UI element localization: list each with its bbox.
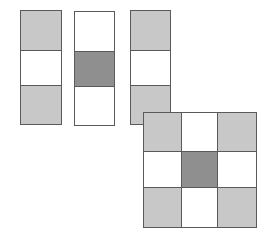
grid-cell-dark (181, 151, 218, 188)
grid-3x3 (143, 112, 256, 227)
grid-cell-white (143, 151, 182, 188)
grid-cell-white (181, 112, 218, 152)
grid-cell-light (143, 187, 182, 228)
strip-3 (130, 10, 171, 124)
strip-cell-white (74, 86, 115, 126)
grid-cell-light (143, 112, 182, 152)
grid-cell-white (217, 151, 257, 188)
strip-cell-white (74, 11, 115, 52)
strip-1 (20, 10, 62, 124)
strip-cell-light (20, 85, 62, 125)
strip-2 (74, 11, 115, 125)
grid-cell-white (181, 187, 218, 228)
grid-cell-light (217, 112, 257, 152)
strip-cell-white (20, 50, 62, 86)
strip-cell-white (130, 50, 171, 86)
grid-cell-light (217, 187, 257, 228)
strip-cell-dark (74, 51, 115, 87)
strip-cell-light (130, 10, 171, 51)
strip-cell-light (20, 10, 62, 51)
